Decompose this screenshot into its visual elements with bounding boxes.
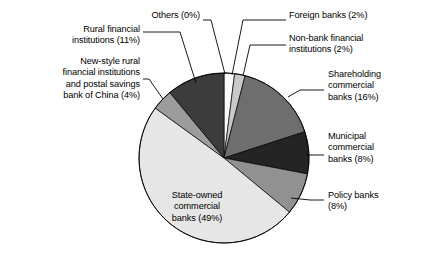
pie-label-foreign-banks: Foreign banks (2%) <box>289 10 419 21</box>
pie-label-others: Others (0%) <box>108 10 200 21</box>
leader-line-rural-financial-institutions <box>143 32 196 83</box>
pie-label-state-owned-commercial-banks: State-owned commercial banks (49%) <box>148 190 246 224</box>
leader-line-new-style-rural <box>143 79 163 99</box>
pie-chart-figure: Others (0%) Rural financial institutions… <box>0 0 427 269</box>
pie-label-policy-banks: Policy banks (8%) <box>328 190 424 213</box>
leader-line-others <box>203 20 225 74</box>
pie-label-new-style-rural: New-style rural financial institutions a… <box>8 56 140 102</box>
leader-line-foreign-banks <box>232 20 286 75</box>
pie-label-non-bank-financial: Non-bank financial institutions (2%) <box>289 33 421 56</box>
leader-line-shareholding <box>288 90 324 97</box>
pie-label-rural-financial-institutions: Rural financial institutions (11%) <box>24 24 140 47</box>
pie-label-municipal-commercial-banks: Municipal commercial banks (8%) <box>328 131 424 165</box>
pie-label-shareholding-commercial-banks: Shareholding commercial banks (16%) <box>328 69 424 103</box>
leader-line-non-bank-financial <box>243 45 286 76</box>
